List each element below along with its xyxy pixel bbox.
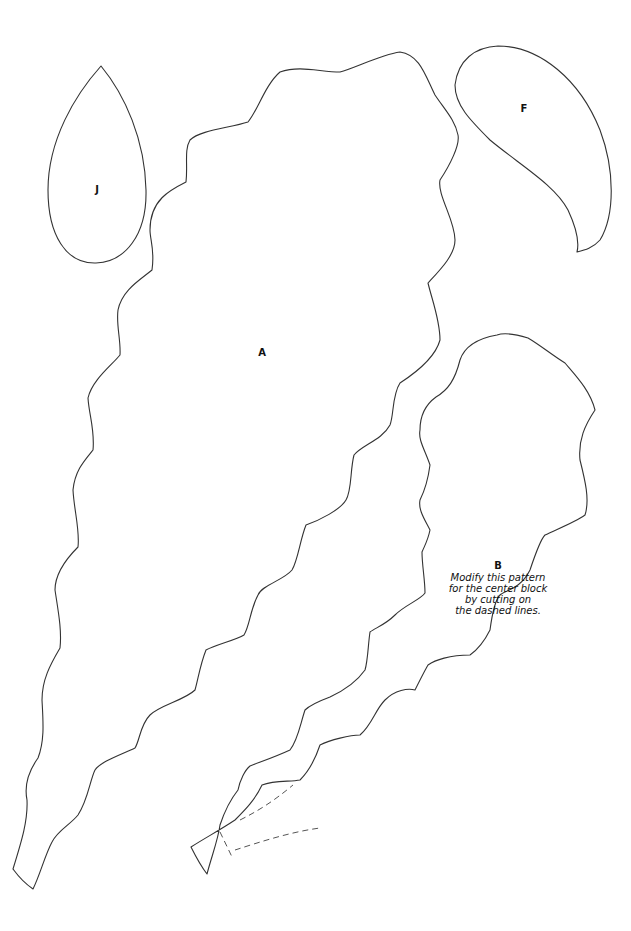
piece-b-dashed-cut-upper [240,785,293,820]
piece-b-dashed-cut-lower [235,828,320,850]
piece-a-label: A [258,347,266,358]
piece-j-outline [48,66,146,263]
piece-f-outline [455,46,611,252]
piece-b-dashed-cut-stem [220,832,233,859]
instruction-line: Modify this pattern [428,572,568,583]
piece-b-instructions: Modify this pattern for the center block… [428,572,568,616]
piece-a-outline [13,52,458,889]
instruction-line: for the center block [428,583,568,594]
instruction-line: by cutting on [428,594,568,605]
instruction-line: the dashed lines. [428,605,568,616]
piece-j-label: J [95,184,99,195]
piece-b-label: B [494,560,502,571]
pattern-sheet [0,0,631,931]
piece-f-label: F [521,103,528,114]
